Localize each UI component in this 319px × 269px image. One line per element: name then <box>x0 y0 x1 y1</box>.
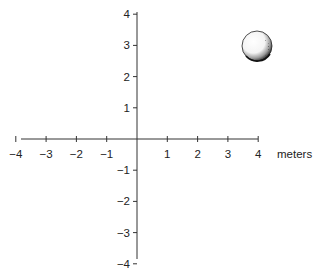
y-tick-label: 4 <box>124 8 131 20</box>
y-tick-label: −4 <box>117 258 131 269</box>
y-tick-label: 1 <box>124 102 130 114</box>
x-axis-tick-labels: −4−3−2−11234 <box>9 148 262 160</box>
x-tick-label: 4 <box>255 148 262 160</box>
y-tick-label: 3 <box>124 39 130 51</box>
x-tick-label: 2 <box>194 148 200 160</box>
plane-svg: −4−3−2−11234 meters 4321−1−2−3−4 <box>0 0 319 269</box>
y-tick-label: 2 <box>124 71 130 83</box>
x-tick-label: 1 <box>164 148 170 160</box>
coordinate-plane-figure: −4−3−2−11234 meters 4321−1−2−3−4 <box>0 0 319 269</box>
y-tick-label: −2 <box>117 195 130 207</box>
x-tick-label: −1 <box>100 148 113 160</box>
x-tick-label: −2 <box>70 148 83 160</box>
x-tick-label: −4 <box>9 148 23 160</box>
x-axis-unit-label: meters <box>277 148 312 160</box>
x-axis: −4−3−2−11234 meters <box>9 136 312 160</box>
golf-ball-icon <box>242 31 272 61</box>
y-tick-label: −1 <box>117 164 130 176</box>
y-tick-label: −3 <box>117 227 130 239</box>
x-tick-label: 3 <box>225 148 231 160</box>
x-tick-label: −3 <box>40 148 53 160</box>
